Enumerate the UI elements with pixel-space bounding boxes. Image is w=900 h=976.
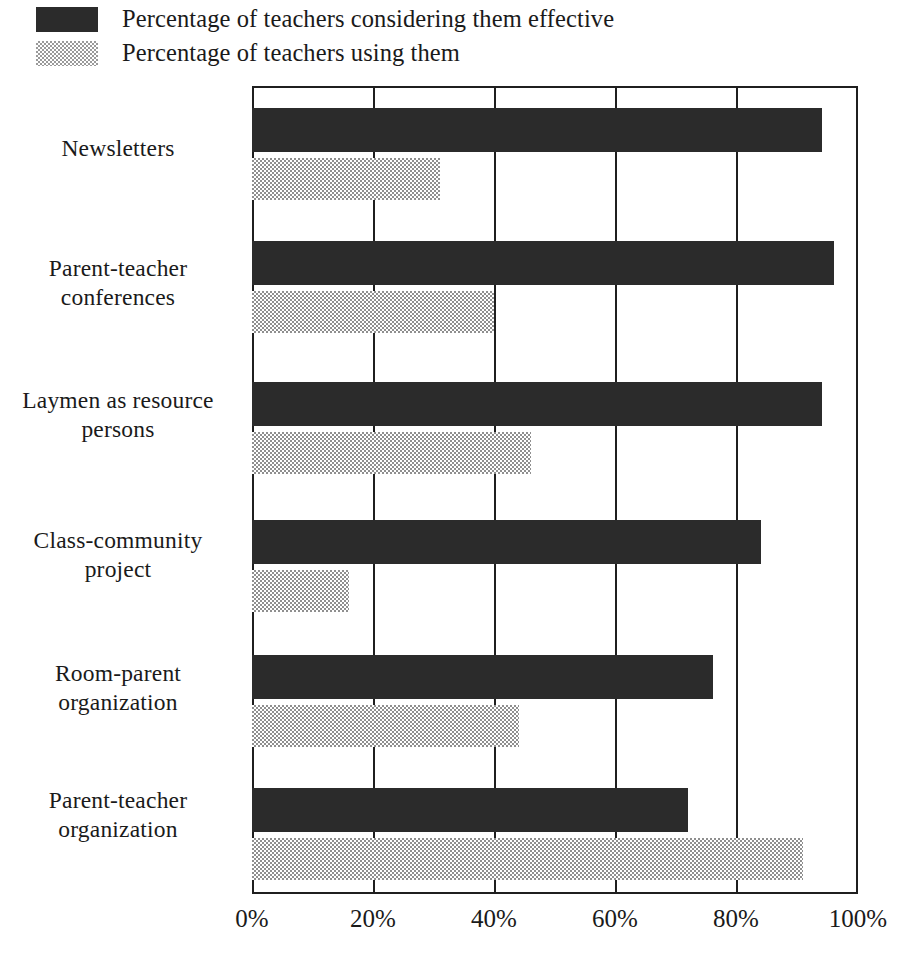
category-label-room-parent-organization: Room-parent organization (0, 659, 236, 717)
x-tick-60: 60% (592, 902, 638, 936)
bar-room-parent-organization-using (252, 705, 519, 747)
category-label-line2: persons (0, 415, 236, 444)
x-tick-0: 0% (235, 902, 268, 936)
category-label-line1: Parent-teacher (0, 786, 236, 815)
category-label-line1: Room-parent (0, 659, 236, 688)
category-label-class-community-project: Class-community project (0, 526, 236, 584)
bar-group-room-parent-organization (252, 626, 858, 761)
bar-group-class-community-project (252, 491, 858, 626)
bar-room-parent-organization-effective (252, 655, 713, 699)
category-label-line1: Class-community (0, 526, 236, 555)
category-label-line2: organization (0, 688, 236, 717)
x-tick-80: 80% (713, 902, 759, 936)
category-label-newsletters: Newsletters (0, 134, 236, 163)
category-label-line1: Laymen as resource (0, 386, 236, 415)
bar-laymen-as-resource-persons-effective (252, 382, 822, 426)
bar-group-parent-teacher-organization (252, 761, 858, 894)
bar-parent-teacher-conferences-using (252, 291, 494, 333)
x-tick-20: 20% (350, 902, 396, 936)
bar-parent-teacher-conferences-effective (252, 241, 834, 285)
bar-newsletters-effective (252, 108, 822, 152)
x-tick-40: 40% (471, 902, 517, 936)
category-label-laymen-as-resource-persons: Laymen as resource persons (0, 386, 236, 444)
legend-item-using: Percentage of teachers using them (36, 36, 876, 70)
x-tick-100: 100% (829, 902, 887, 936)
bar-class-community-project-using (252, 570, 349, 612)
category-label-line2: organization (0, 815, 236, 844)
category-label-line2: project (0, 555, 236, 584)
bar-chart-plot-area (252, 86, 858, 894)
x-axis-tick-labels: 0% 20% 40% 60% 80% 100% (252, 902, 858, 946)
category-label-parent-teacher-conferences: Parent-teacher conferences (0, 254, 236, 312)
bar-parent-teacher-organization-effective (252, 788, 688, 832)
chart-legend: Percentage of teachers considering them … (36, 2, 876, 70)
bar-newsletters-using (252, 158, 440, 200)
light-checkered-swatch (36, 41, 98, 66)
bar-series-container (252, 86, 858, 894)
legend-label-using: Percentage of teachers using them (122, 41, 460, 66)
dark-solid-swatch (36, 7, 98, 32)
category-label-line1: Parent-teacher (0, 254, 236, 283)
category-label-line2: conferences (0, 283, 236, 312)
bar-parent-teacher-organization-using (252, 838, 803, 880)
category-label-line1: Newsletters (0, 134, 236, 163)
bar-group-newsletters (252, 86, 858, 221)
category-label-parent-teacher-organization: Parent-teacher organization (0, 786, 236, 844)
bar-class-community-project-effective (252, 520, 761, 564)
bar-group-laymen-as-resource-persons (252, 356, 858, 491)
bar-laymen-as-resource-persons-using (252, 432, 531, 474)
category-axis-labels: Newsletters Parent-teacher conferences L… (0, 86, 244, 894)
bar-group-parent-teacher-conferences (252, 221, 858, 356)
legend-label-effective: Percentage of teachers considering them … (122, 7, 614, 32)
legend-item-effective: Percentage of teachers considering them … (36, 2, 876, 36)
